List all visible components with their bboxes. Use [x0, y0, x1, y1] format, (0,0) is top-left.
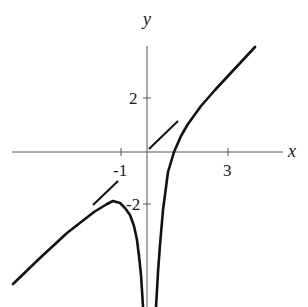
tick-label-x-neg1: -1 — [113, 161, 127, 180]
curve-left-branch — [13, 201, 143, 307]
oblique-asymptote-segment-upper — [149, 121, 178, 149]
curve-right-branch — [156, 47, 255, 307]
tick-label-x-3: 3 — [223, 161, 232, 180]
tick-label-y-2: 2 — [129, 89, 138, 108]
y-axis-label: y — [141, 9, 151, 29]
x-axis-label: x — [287, 141, 296, 161]
function-graph: y x 2 -2 -1 3 — [0, 0, 308, 307]
